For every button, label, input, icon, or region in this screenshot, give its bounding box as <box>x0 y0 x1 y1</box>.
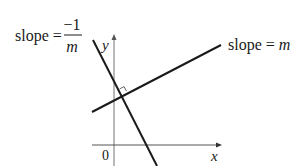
x-axis-label: x <box>210 148 218 164</box>
line-slope-m <box>92 45 221 112</box>
svg-text:slope = m: slope = m <box>228 36 290 54</box>
right-angle-marker <box>120 87 127 92</box>
perpendicular-lines-diagram: y x 0 slope = m slope = −1 m <box>0 0 302 166</box>
fraction-numerator: −1 <box>63 16 80 33</box>
fraction-denominator: m <box>66 38 78 55</box>
slope-m-prefix: slope = <box>228 36 279 54</box>
x-axis <box>92 143 222 148</box>
slope-neg-prefix: slope = <box>15 27 66 45</box>
x-axis-arrow-icon <box>216 143 222 148</box>
y-axis-label: y <box>100 37 109 53</box>
slope-m-label: slope = m <box>228 36 290 54</box>
slope-neg-reciprocal-label: slope = −1 m <box>15 16 82 55</box>
origin-label: 0 <box>102 148 109 163</box>
slope-m-var: m <box>279 36 291 53</box>
y-axis-arrow-icon <box>112 34 117 40</box>
